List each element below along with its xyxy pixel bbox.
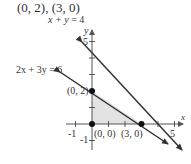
point-label-3-0: (3, 0)	[121, 128, 143, 139]
point-0-2	[89, 88, 95, 94]
label-line-x-plus-y-eq-4: x + y = 4	[48, 14, 84, 25]
point-3-0	[139, 121, 145, 127]
x-tick-neg1: -1	[68, 128, 76, 139]
y-tick-neg1: -1	[80, 134, 88, 145]
x-tick-5: 5	[170, 128, 175, 139]
point-label-0-2: (0, 2)	[67, 85, 89, 96]
x-axis-label: x	[181, 112, 185, 122]
feasible-region	[92, 91, 142, 124]
point-label-0-0: (0, 0)	[94, 128, 116, 139]
coordinate-plane	[0, 0, 191, 164]
point-0-0	[89, 121, 95, 127]
y-axis-label: y	[84, 25, 88, 36]
label-line-2x-plus-3y-eq-6: 2x + 3y = 6	[16, 64, 62, 75]
y-tick-5: 5	[83, 36, 88, 47]
